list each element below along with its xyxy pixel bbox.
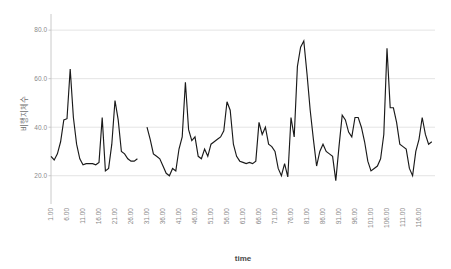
x-tick-label: 56.00: [223, 208, 230, 225]
y-axis-title: 비행지체수: [19, 96, 29, 131]
series-path: [51, 41, 432, 181]
x-axis-title: time: [235, 254, 252, 263]
x-tick-label: 51.00: [207, 208, 214, 225]
x-tick-label: 101.00: [367, 208, 374, 228]
x-tick-label: 1.00: [47, 208, 54, 221]
x-tick-label: 91.00: [335, 208, 342, 225]
x-tick-label: 21.00: [111, 208, 118, 225]
x-tick-labels: 1.006.0011.0016.0021.0026.0031.0036.0041…: [47, 208, 422, 228]
x-tick-label: 81.00: [303, 208, 310, 225]
chart-container: 20.040.060.080.0 1.006.0011.0016.0021.00…: [0, 0, 451, 269]
x-tick-label: 116.00: [415, 208, 422, 228]
x-tick-label: 86.00: [319, 208, 326, 225]
gridlines: [51, 30, 435, 176]
x-tick-label: 31.00: [143, 208, 150, 225]
y-tick-label: 80.0: [34, 26, 47, 33]
x-tick-label: 36.00: [159, 208, 166, 225]
y-tick-label: 20.0: [34, 172, 47, 179]
data-series-line: [51, 41, 432, 181]
x-tick-label: 71.00: [271, 208, 278, 225]
y-tick-label: 60.0: [34, 75, 47, 82]
x-tick-label: 96.00: [351, 208, 358, 225]
x-tick-label: 76.00: [287, 208, 294, 225]
x-tick-label: 6.00: [63, 208, 70, 221]
x-tick-label: 106.00: [383, 208, 390, 228]
x-tick-label: 16.00: [95, 208, 102, 225]
x-tick-label: 11.00: [79, 208, 86, 224]
x-tick-label: 46.00: [191, 208, 198, 225]
x-tick-label: 41.00: [175, 208, 182, 225]
x-tick-label: 66.00: [255, 208, 262, 225]
y-tick-labels: 20.040.060.080.0: [34, 26, 51, 179]
x-tick-label: 61.00: [239, 208, 246, 225]
x-tick-label: 111.00: [399, 208, 406, 227]
line-chart: 20.040.060.080.0 1.006.0011.0016.0021.00…: [0, 0, 451, 269]
x-tick-label: 26.00: [127, 208, 134, 225]
y-tick-label: 40.0: [34, 124, 47, 131]
